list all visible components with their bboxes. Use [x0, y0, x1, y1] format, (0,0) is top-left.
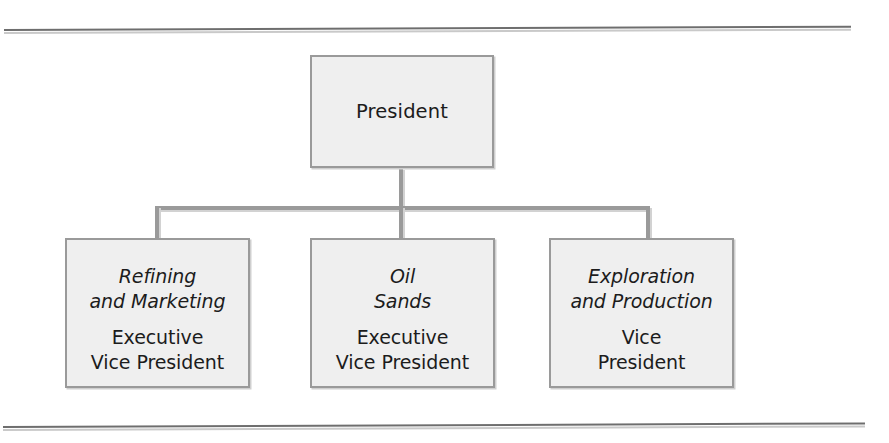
org-node-refining-division: Refining and Marketing — [90, 264, 226, 315]
org-node-president-title: President — [356, 100, 448, 123]
org-node-oilsands-division: Oil Sands — [374, 264, 431, 315]
org-node-oilsands-title: Executive Vice President — [336, 325, 469, 375]
connector-drop-exploration — [646, 206, 650, 240]
org-node-refining-and-marketing: Refining and Marketing Executive Vice Pr… — [65, 238, 250, 388]
org-node-exploration-and-production: Exploration and Production Vice Presiden… — [549, 238, 734, 388]
scanned-page: President Refining and Marketing Executi… — [0, 0, 889, 443]
connector-drop-right-shadow — [650, 208, 652, 240]
connector-drop-middle-shadow — [403, 208, 405, 240]
connector-bus-shadow — [157, 210, 652, 212]
org-node-exploration-title: Vice President — [598, 325, 686, 375]
connector-drop-refining — [155, 206, 159, 240]
org-node-exploration-division: Exploration and Production — [570, 264, 712, 315]
connector-drop-left-shadow — [159, 208, 161, 240]
connector-president-stem — [399, 168, 403, 210]
connector-stem-shadow — [403, 170, 405, 210]
org-node-oil-sands: Oil Sands Executive Vice President — [310, 238, 495, 388]
org-node-refining-title: Executive Vice President — [91, 325, 224, 375]
connector-drop-oilsands — [399, 206, 403, 240]
org-node-president: President — [310, 55, 494, 168]
organization-chart: President Refining and Marketing Executi… — [0, 0, 889, 443]
